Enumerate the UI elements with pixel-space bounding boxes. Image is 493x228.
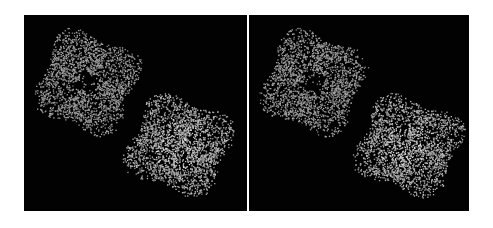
stereo-panel-right [249, 15, 469, 211]
upper-particle [260, 28, 370, 138]
lower-particle [353, 93, 466, 199]
upper-particle [35, 28, 143, 137]
stereo-panel-left [24, 15, 247, 211]
lower-particle [123, 93, 235, 196]
molecule-render-left [24, 15, 247, 211]
molecule-render-right [249, 15, 469, 211]
